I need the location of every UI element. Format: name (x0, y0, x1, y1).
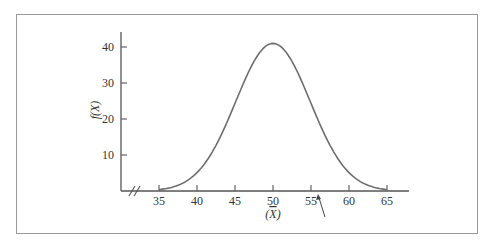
x-tick-label: 50 (267, 194, 279, 208)
arrow-annotation (316, 194, 325, 217)
normal-curve (159, 43, 387, 189)
y-ticks: 10203040 (102, 40, 127, 162)
x-tick-label: 55 (305, 194, 317, 208)
x-ticks: 35404550556065 (153, 185, 393, 208)
x-axis-label: (X) (265, 207, 280, 221)
x-tick-label: 35 (153, 194, 165, 208)
y-tick-label: 40 (102, 40, 114, 54)
y-axis-label: f(X) (88, 101, 102, 120)
y-tick-label: 30 (102, 76, 114, 90)
x-tick-label: 60 (343, 194, 355, 208)
x-bar-symbol: X (268, 207, 277, 221)
y-tick-label: 20 (102, 112, 114, 126)
x-tick-label: 65 (381, 194, 393, 208)
x-tick-label: 45 (229, 194, 241, 208)
chart: 10203040 35404550556065 f(X) (X) (0, 0, 494, 249)
x-tick-label: 40 (191, 194, 203, 208)
y-tick-label: 10 (102, 148, 114, 162)
